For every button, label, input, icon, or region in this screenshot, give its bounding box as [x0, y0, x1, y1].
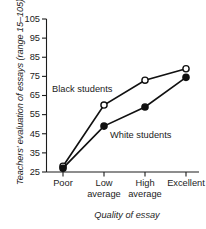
- data-point-marker: [60, 165, 66, 171]
- data-point-marker: [183, 74, 189, 80]
- data-point-marker: [183, 66, 189, 72]
- series-line-white-students: [63, 77, 186, 168]
- data-point-marker: [101, 102, 107, 108]
- axes: [42, 19, 199, 177]
- y-axis-ticks: [42, 19, 47, 172]
- data-point-marker: [101, 123, 107, 129]
- plot-area: [0, 0, 206, 229]
- series-line-black-students: [63, 69, 186, 167]
- essay-evaluation-line-chart: Teachers' evaluation of essays (range 15…: [0, 0, 206, 229]
- data-point-marker: [142, 104, 148, 110]
- x-axis-ticks: [63, 172, 186, 177]
- data-series: [60, 66, 189, 172]
- data-point-marker: [142, 77, 148, 83]
